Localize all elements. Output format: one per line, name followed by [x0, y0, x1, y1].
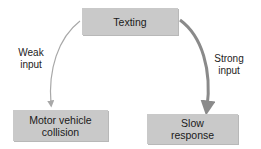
weak-label-line1: Weak	[16, 47, 46, 59]
weak-input-label: Weak input	[16, 47, 46, 71]
texting-label: Texting	[113, 16, 146, 28]
strong-label-line2: input	[211, 65, 247, 77]
slow-response-node: Slow response	[147, 114, 238, 144]
slow-response-label-line1: Slow	[181, 117, 204, 129]
strong-input-label: Strong input	[211, 53, 247, 77]
weak-label-line2: input	[16, 59, 46, 71]
collision-label-line1: Motor vehicle	[29, 114, 91, 126]
motor-vehicle-collision-node: Motor vehicle collision	[13, 110, 108, 141]
strong-label-line1: Strong	[211, 53, 247, 65]
weak-input-arrow	[50, 21, 80, 104]
strong-input-arrow	[180, 20, 208, 108]
collision-label-line2: collision	[42, 126, 79, 138]
texting-node: Texting	[82, 8, 178, 35]
slow-response-label-line2: response	[171, 129, 214, 141]
